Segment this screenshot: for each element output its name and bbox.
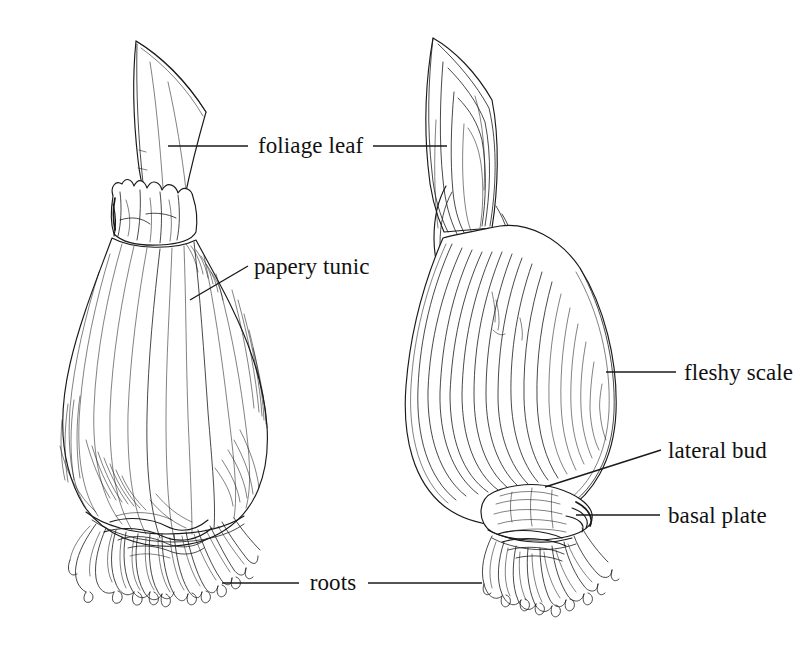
label-fleshy-scale: fleshy scale	[684, 360, 793, 385]
label-papery-tunic: papery tunic	[254, 254, 370, 279]
bulb-anatomy-figure: foliage leaf papery tunic fleshy scale l…	[0, 0, 802, 658]
whole-bulb-neck-collar	[111, 180, 197, 246]
label-lateral-bud: lateral bud	[668, 438, 767, 463]
label-foliage-leaf: foliage leaf	[258, 133, 364, 158]
figure-canvas: foliage leaf papery tunic fleshy scale l…	[0, 0, 802, 658]
label-basal-plate: basal plate	[668, 503, 767, 528]
label-roots: roots	[310, 570, 357, 595]
